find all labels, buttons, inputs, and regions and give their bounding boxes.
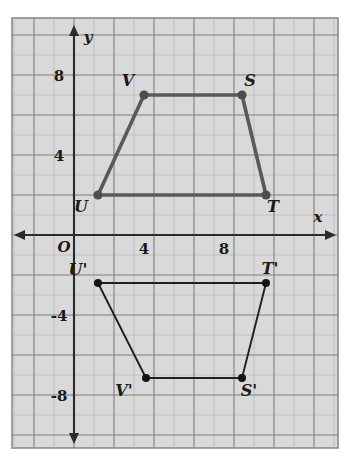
origin-label: O bbox=[57, 238, 70, 256]
vertex-point bbox=[237, 90, 246, 99]
x-tick-label: 4 bbox=[139, 240, 149, 258]
vertex-label: U bbox=[74, 197, 89, 216]
y-tick-label: -4 bbox=[51, 307, 68, 325]
coordinate-plane-figure: 4884-4-8 x y O VSTUU'T'S'V' bbox=[0, 0, 358, 464]
vertex-label: V bbox=[122, 71, 136, 90]
vertex-point bbox=[139, 90, 148, 99]
vertex-label: V' bbox=[115, 381, 132, 400]
vertex-point bbox=[93, 190, 102, 199]
x-tick-label: 8 bbox=[219, 240, 229, 258]
vertex-point bbox=[262, 279, 270, 287]
y-axis-label: y bbox=[83, 28, 94, 46]
vertex-label: S bbox=[244, 71, 256, 90]
y-tick-label: 8 bbox=[54, 67, 64, 85]
vertex-label: S' bbox=[241, 381, 257, 400]
vertex-label: T bbox=[267, 197, 280, 216]
vertex-label: U' bbox=[69, 260, 88, 279]
x-axis-label: x bbox=[313, 208, 324, 226]
y-tick-label: -8 bbox=[51, 387, 68, 405]
vertex-point bbox=[142, 374, 150, 382]
y-tick-label: 4 bbox=[54, 147, 64, 165]
vertex-point bbox=[94, 279, 102, 287]
vertex-label: T' bbox=[262, 259, 279, 278]
